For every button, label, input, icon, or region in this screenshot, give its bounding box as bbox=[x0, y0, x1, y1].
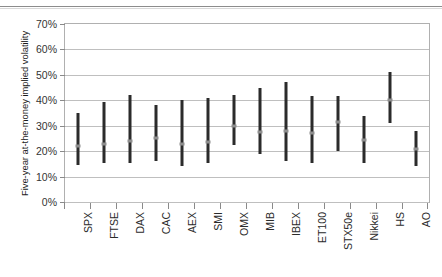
gridline bbox=[65, 126, 429, 127]
page-divider-top bbox=[0, 6, 442, 7]
range-bar bbox=[389, 72, 392, 123]
x-axis-category-label: Nikkei bbox=[368, 212, 380, 241]
current-value-marker bbox=[388, 99, 393, 102]
plot-area: 0%10%20%30%40%50%60%70% bbox=[64, 23, 430, 203]
x-axis-category-label: OMX bbox=[238, 212, 250, 236]
x-axis-category-label: HS bbox=[394, 212, 406, 227]
x-axis-tick bbox=[220, 203, 221, 209]
current-value-marker bbox=[102, 142, 107, 145]
x-axis-tick bbox=[142, 203, 143, 209]
range-bar bbox=[337, 96, 340, 151]
x-axis-tick bbox=[402, 203, 403, 209]
gridline bbox=[65, 75, 429, 76]
y-axis-tick-label: 30% bbox=[36, 120, 57, 132]
current-value-marker bbox=[128, 139, 133, 142]
current-value-marker bbox=[284, 129, 289, 132]
range-bar bbox=[155, 105, 158, 161]
y-axis-tick-label: 20% bbox=[36, 145, 57, 157]
y-axis-tick-label: 50% bbox=[36, 69, 57, 81]
current-value-marker bbox=[206, 141, 211, 144]
range-bar bbox=[207, 98, 210, 163]
range-bar bbox=[285, 82, 288, 161]
y-axis-tick bbox=[60, 100, 65, 101]
y-axis-tick-label: 60% bbox=[36, 43, 57, 55]
range-bar bbox=[77, 113, 80, 165]
page-divider-top-secondary bbox=[0, 8, 442, 9]
chart-figure: Five-year at-the-money implied volatilit… bbox=[0, 10, 442, 277]
x-axis-category-label: FTSE bbox=[108, 212, 120, 239]
current-value-marker bbox=[76, 145, 81, 148]
x-axis-category-label: SMI bbox=[212, 212, 224, 231]
x-axis-category-label: AO bbox=[420, 212, 432, 227]
range-bar bbox=[129, 95, 132, 162]
x-axis-category-label: MIB bbox=[264, 212, 276, 231]
y-axis-tick bbox=[60, 75, 65, 76]
range-bar bbox=[181, 100, 184, 166]
x-axis-category-label: STX50e bbox=[342, 212, 354, 250]
y-axis-tick-label: 40% bbox=[36, 94, 57, 106]
x-axis-category-label: AEX bbox=[186, 212, 198, 233]
y-axis-tick bbox=[60, 177, 65, 178]
gridline bbox=[65, 49, 429, 50]
y-axis-tick-label: 70% bbox=[36, 18, 57, 30]
x-axis-tick bbox=[324, 203, 325, 209]
x-axis-tick bbox=[376, 203, 377, 209]
x-axis-tick bbox=[272, 203, 273, 209]
current-value-marker bbox=[232, 124, 237, 127]
y-axis-tick bbox=[60, 49, 65, 50]
current-value-marker bbox=[258, 131, 263, 134]
y-axis-tick bbox=[60, 151, 65, 152]
gridline bbox=[65, 177, 429, 178]
x-axis-tick bbox=[298, 203, 299, 209]
x-axis-tick bbox=[246, 203, 247, 209]
current-value-marker bbox=[336, 120, 341, 123]
x-axis-tick bbox=[64, 203, 65, 209]
range-bar bbox=[233, 95, 236, 145]
range-bar bbox=[259, 88, 262, 154]
y-axis-tick-label: 10% bbox=[36, 171, 57, 183]
x-axis-category-label: ET100 bbox=[316, 212, 328, 243]
current-value-marker bbox=[310, 132, 315, 135]
x-axis-category-label: SPX bbox=[82, 212, 94, 233]
current-value-marker bbox=[180, 142, 185, 145]
x-axis-category-label: CAC bbox=[160, 212, 172, 234]
x-axis-tick bbox=[427, 203, 428, 209]
range-bar bbox=[103, 102, 106, 163]
x-axis-tick bbox=[168, 203, 169, 209]
x-axis-category-label: DAX bbox=[134, 212, 146, 234]
x-axis-category-label: IBEX bbox=[290, 212, 302, 236]
clipped-header-text: ... bbox=[390, 0, 396, 5]
current-value-marker bbox=[154, 137, 159, 140]
y-axis-tick bbox=[60, 24, 65, 25]
x-axis-tick bbox=[90, 203, 91, 209]
gridline bbox=[65, 100, 429, 101]
y-axis-title: Five-year at-the-money implied volatilit… bbox=[19, 24, 30, 204]
current-value-marker bbox=[414, 147, 419, 150]
range-bar bbox=[311, 96, 314, 162]
gridline bbox=[65, 151, 429, 152]
y-axis-tick-label: 0% bbox=[42, 196, 57, 208]
x-axis-tick bbox=[116, 203, 117, 209]
current-value-marker bbox=[362, 138, 367, 141]
x-axis: SPXFTSEDAXCACAEXSMIOMXMIBIBEXET100STX50e… bbox=[64, 203, 430, 277]
x-axis-tick bbox=[350, 203, 351, 209]
x-axis-tick bbox=[194, 203, 195, 209]
y-axis-tick bbox=[60, 126, 65, 127]
